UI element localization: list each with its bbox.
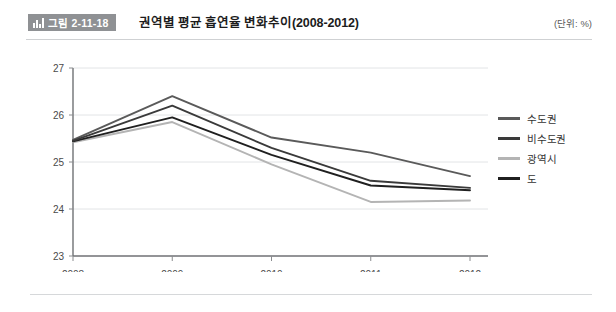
bar-chart-icon <box>33 17 44 28</box>
legend-item-label: 광역시 <box>527 151 556 166</box>
svg-text:25: 25 <box>53 157 65 168</box>
data-series-group <box>73 96 470 202</box>
figure-number-badge: 그림 2-11-18 <box>28 14 116 31</box>
svg-text:27: 27 <box>53 63 65 74</box>
legend-item-label: 수도권 <box>527 111 556 126</box>
series-line-도 <box>73 117 470 190</box>
chart-legend: 수도권비수도권광역시도 <box>498 108 610 188</box>
svg-text:26: 26 <box>53 110 65 121</box>
footer-divider <box>30 294 592 295</box>
legend-item-label: 도 <box>527 171 537 186</box>
svg-text:23: 23 <box>53 251 65 262</box>
y-tick-labels: 2324252627 <box>53 63 65 262</box>
svg-text:2008: 2008 <box>62 269 85 272</box>
svg-text:2012: 2012 <box>459 269 482 272</box>
legend-swatch-icon <box>498 117 520 120</box>
figure-number-label: 그림 2-11-18 <box>48 15 109 30</box>
svg-text:2010: 2010 <box>260 269 283 272</box>
legend-swatch-icon <box>498 157 520 160</box>
x-tick-labels: 20082009201020112012 <box>62 269 482 272</box>
legend-swatch-icon <box>498 137 520 140</box>
legend-item-label: 비수도권 <box>527 131 566 146</box>
figure-header: 그림 2-11-18 권역별 평균 흡연율 변화추이(2008-2012) (단… <box>0 0 616 40</box>
unit-label: (단위: %) <box>554 16 592 30</box>
svg-text:24: 24 <box>53 204 65 215</box>
legend-swatch-icon <box>498 177 520 180</box>
legend-item-도[interactable]: 도 <box>498 168 610 188</box>
svg-text:2011: 2011 <box>360 269 382 272</box>
legend-item-광역시[interactable]: 광역시 <box>498 148 610 168</box>
series-line-비수도권 <box>73 106 470 188</box>
legend-item-비수도권[interactable]: 비수도권 <box>498 128 610 148</box>
svg-text:2009: 2009 <box>161 269 184 272</box>
legend-item-수도권[interactable]: 수도권 <box>498 108 610 128</box>
page-title: 권역별 평균 흡연율 변화추이(2008-2012) <box>139 12 359 31</box>
x-tick-marks <box>73 256 470 261</box>
